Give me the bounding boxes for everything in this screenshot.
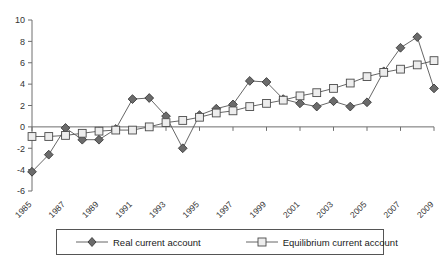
data-point-marker bbox=[346, 102, 355, 111]
data-point-marker bbox=[128, 95, 137, 104]
data-point-marker bbox=[95, 135, 104, 144]
data-point-marker bbox=[178, 144, 187, 153]
data-point-marker bbox=[397, 65, 405, 73]
data-point-marker bbox=[430, 84, 439, 93]
x-tick-label: 2007 bbox=[381, 199, 402, 220]
data-point-marker bbox=[229, 107, 237, 115]
data-point-marker bbox=[179, 117, 187, 125]
data-point-marker bbox=[296, 92, 304, 100]
data-point-marker bbox=[346, 79, 354, 87]
chart-container: -6-4-20246810198519871989199119931995199… bbox=[0, 0, 439, 264]
data-point-marker bbox=[380, 68, 388, 76]
data-point-marker bbox=[45, 133, 53, 141]
data-point-marker bbox=[145, 123, 153, 131]
x-tick-label: 1989 bbox=[80, 199, 101, 220]
data-point-marker bbox=[28, 133, 36, 141]
data-point-marker bbox=[296, 99, 305, 108]
x-tick-label: 1993 bbox=[147, 199, 168, 220]
y-tick-label: 6 bbox=[20, 58, 25, 68]
x-tick-label: 1985 bbox=[13, 199, 34, 220]
data-point-marker bbox=[78, 129, 86, 137]
data-point-marker bbox=[95, 127, 103, 135]
x-tick-label: 2003 bbox=[314, 199, 335, 220]
y-tick-label: 0 bbox=[20, 122, 25, 132]
data-point-marker bbox=[329, 97, 338, 106]
data-point-marker bbox=[330, 85, 338, 93]
legend-label-equilibrium-current-account: Equilibrium current account bbox=[283, 237, 398, 248]
data-point-marker bbox=[162, 119, 170, 127]
data-point-marker bbox=[61, 124, 70, 133]
data-point-marker bbox=[196, 113, 204, 121]
legend-label-real-current-account: Real current account bbox=[113, 237, 201, 248]
legend-item-equilibrium-current-account: Equilibrium current account bbox=[245, 236, 398, 248]
data-point-marker bbox=[363, 73, 371, 81]
data-point-marker bbox=[313, 89, 321, 97]
legend-item-real-current-account: Real current account bbox=[75, 236, 201, 248]
line-chart-plot: -6-4-20246810198519871989199119931995199… bbox=[0, 0, 439, 226]
data-point-marker bbox=[245, 77, 254, 86]
data-point-marker bbox=[279, 96, 287, 104]
x-tick-label: 1987 bbox=[46, 199, 67, 220]
data-point-marker bbox=[246, 103, 254, 111]
y-tick-label: -2 bbox=[17, 144, 25, 154]
series-real-current-account bbox=[28, 33, 439, 176]
data-point-marker bbox=[62, 132, 70, 140]
data-point-marker bbox=[263, 99, 271, 107]
y-tick-label: 10 bbox=[15, 15, 25, 25]
legend-marker-filled-diamond-icon bbox=[75, 236, 109, 248]
data-point-marker bbox=[112, 126, 120, 134]
x-tick-label: 2009 bbox=[415, 199, 436, 220]
y-tick-label: 4 bbox=[20, 79, 25, 89]
x-tick-label: 1991 bbox=[113, 199, 134, 220]
data-point-marker bbox=[312, 102, 321, 111]
legend-marker-open-square-icon bbox=[245, 236, 279, 248]
data-point-marker bbox=[212, 109, 220, 117]
data-point-marker bbox=[413, 61, 421, 69]
y-tick-label: 8 bbox=[20, 37, 25, 47]
x-tick-label: 1999 bbox=[247, 199, 268, 220]
data-point-marker bbox=[396, 43, 405, 52]
x-tick-label: 1997 bbox=[214, 199, 235, 220]
chart-legend: Real current account Equilibrium current… bbox=[56, 229, 384, 255]
y-tick-label: -6 bbox=[17, 186, 25, 196]
series-path bbox=[32, 61, 434, 137]
x-tick-label: 2005 bbox=[348, 199, 369, 220]
x-tick-label: 2001 bbox=[281, 199, 302, 220]
data-point-marker bbox=[430, 57, 438, 65]
y-tick-label: -4 bbox=[17, 165, 25, 175]
x-tick-label: 1995 bbox=[180, 199, 201, 220]
data-point-marker bbox=[413, 33, 422, 42]
data-point-marker bbox=[129, 126, 137, 134]
y-tick-label: 2 bbox=[20, 101, 25, 111]
data-point-marker bbox=[363, 98, 372, 107]
